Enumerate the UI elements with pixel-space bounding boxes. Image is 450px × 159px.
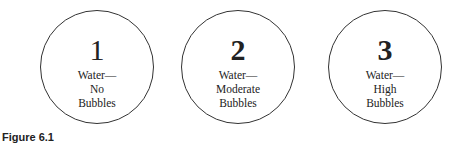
circle-3: 3 Water— High Bubbles <box>328 10 442 124</box>
circle-3-label-line2: High <box>329 82 441 96</box>
circle-1-label-line1: Water— <box>41 68 153 82</box>
circle-3-label-line1: Water— <box>329 68 441 82</box>
figure-caption: Figure 6.1 <box>2 131 54 143</box>
circle-3-label-line3: Bubbles <box>329 96 441 110</box>
circle-2-label-line3: Bubbles <box>182 96 294 110</box>
circle-2-number: 2 <box>182 35 294 65</box>
circle-3-label: Water— High Bubbles <box>329 68 441 110</box>
circle-1: 1 Water— No Bubbles <box>40 10 154 124</box>
circle-2-label: Water— Moderate Bubbles <box>182 68 294 110</box>
circle-3-number: 3 <box>329 35 441 65</box>
circle-1-label-line3: Bubbles <box>41 96 153 110</box>
circle-2-label-line2: Moderate <box>182 82 294 96</box>
circle-1-label: Water— No Bubbles <box>41 68 153 110</box>
circle-2: 2 Water— Moderate Bubbles <box>181 10 295 124</box>
circle-2-label-line1: Water— <box>182 68 294 82</box>
circle-1-number: 1 <box>41 35 153 65</box>
circle-1-label-line2: No <box>41 82 153 96</box>
